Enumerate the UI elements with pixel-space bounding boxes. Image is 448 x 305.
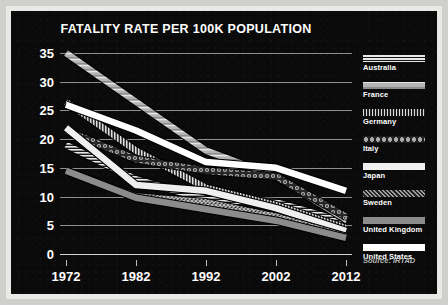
legend-item-sweden[interactable]: Sweden xyxy=(363,190,437,215)
legend-swatch-united-kingdom-icon xyxy=(363,217,425,224)
legend-label-australia: Australia xyxy=(363,63,437,72)
gridline-0 xyxy=(60,254,352,255)
legend-swatch-italy-icon xyxy=(363,136,425,143)
y-tick-label-15: 15 xyxy=(20,160,54,175)
chart-legend: AustraliaFranceGermanyItalyJapanSwedenUn… xyxy=(363,55,437,271)
legend-label-germany: Germany xyxy=(363,117,437,126)
legend-item-japan[interactable]: Japan xyxy=(363,163,437,188)
legend-item-germany[interactable]: Germany xyxy=(363,109,437,134)
legend-item-france[interactable]: France xyxy=(363,82,437,107)
legend-item-united-kingdom[interactable]: United Kingdom xyxy=(363,217,437,242)
legend-swatch-germany-icon xyxy=(363,109,425,116)
y-tick-label-0: 0 xyxy=(20,247,54,262)
x-tick-label-2002: 2002 xyxy=(262,269,291,284)
legend-label-japan: Japan xyxy=(363,171,437,180)
legend-label-sweden: Sweden xyxy=(363,198,437,207)
x-tick-label-2012: 2012 xyxy=(332,269,361,284)
x-tick-label-1972: 1972 xyxy=(52,269,81,284)
legend-swatch-sweden-icon xyxy=(363,190,425,197)
x-tick-2002 xyxy=(276,260,277,266)
legend-label-united-kingdom: United Kingdom xyxy=(363,225,437,234)
legend-item-australia[interactable]: Australia xyxy=(363,55,437,80)
legend-swatch-japan-icon xyxy=(363,163,425,170)
x-tick-2012 xyxy=(346,260,347,266)
series-lines xyxy=(60,53,352,254)
y-tick-label-5: 5 xyxy=(20,218,54,233)
legend-label-france: France xyxy=(363,90,437,99)
x-tick-label-1982: 1982 xyxy=(122,269,151,284)
y-tick-label-30: 30 xyxy=(20,74,54,89)
x-tick-label-1992: 1992 xyxy=(192,269,221,284)
y-tick-label-20: 20 xyxy=(20,132,54,147)
y-axis-labels: 05101520253035 xyxy=(18,53,54,254)
x-axis-labels: 19721982199220022012 xyxy=(60,260,352,282)
x-tick-1972 xyxy=(66,260,67,266)
legend-item-italy[interactable]: Italy xyxy=(363,136,437,161)
legend-swatch-australia-icon xyxy=(363,55,425,62)
legend-swatch-united-states-icon xyxy=(363,244,425,251)
legend-swatch-france-icon xyxy=(363,82,425,89)
legend-label-italy: Italy xyxy=(363,144,437,153)
chart-title: FATALITY RATE PER 100K POPULATION xyxy=(11,22,361,36)
y-tick-label-10: 10 xyxy=(20,189,54,204)
screenshot-frame: FATALITY RATE PER 100K POPULATION 051015… xyxy=(0,0,448,305)
chart-panel: FATALITY RATE PER 100K POPULATION 051015… xyxy=(11,11,437,294)
plot-area xyxy=(60,53,352,254)
y-tick-label-35: 35 xyxy=(20,46,54,61)
source-note: Source: IRTAD xyxy=(363,256,415,265)
x-tick-1992 xyxy=(206,260,207,266)
y-tick-label-25: 25 xyxy=(20,103,54,118)
x-tick-1982 xyxy=(136,260,137,266)
